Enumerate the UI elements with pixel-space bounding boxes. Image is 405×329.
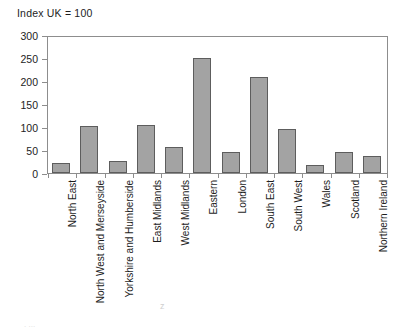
bar-chart-figure: Index UK = 100 050100150200250300 North … [0,0,405,329]
bars-layer [47,36,386,173]
bar [306,165,324,173]
y-axis-tick-label: 100 [20,122,38,134]
x-axis-tick-mark [105,174,106,178]
bar-slot [75,36,103,173]
x-axis-tick-mark [359,174,360,178]
x-axis-tick-mark [274,174,275,178]
chart-title: Index UK = 100 [17,7,92,19]
bar [52,163,70,173]
scan-artifact: z . ... [0,300,405,329]
bar [80,126,98,173]
x-axis-tick-mark [246,174,247,178]
y-axis-tick-label: 200 [20,76,38,88]
x-axis-label-slot: North East [48,180,76,298]
bar [278,129,296,173]
x-axis-tick-mark [189,174,190,178]
x-axis-labels: North EastNorth West and MerseysideYorks… [48,180,388,300]
x-axis-tick-mark [76,174,77,178]
y-axis-tick-label: 50 [26,145,38,157]
bar-slot [330,36,358,173]
bar-slot [104,36,132,173]
bar-slot [132,36,160,173]
bar-slot [188,36,216,173]
x-axis-label-slot: South East [246,180,274,298]
x-axis-label-slot: Eastern [189,180,217,298]
x-axis-tick-mark [161,174,162,178]
x-axis-label-slot: Yorkshire and Humberside [105,180,133,298]
y-axis: 050100150200250300 [0,30,47,180]
svg-text:z: z [160,301,165,311]
bar-slot [358,36,386,173]
plot-area [47,36,388,174]
bar-slot [47,36,75,173]
bar [250,77,268,173]
svg-text:. ...: . ... [24,320,35,329]
x-axis-label-slot: West Midlands [161,180,189,298]
x-axis-tick-mark [218,174,219,178]
x-axis-tick-mark [331,174,332,178]
bar-slot [160,36,188,173]
bar-slot [217,36,245,173]
x-axis-tick-label: Northern Ireland [379,180,389,252]
x-axis-label-slot: Wales [302,180,330,298]
y-axis-tick-label: 150 [20,99,38,111]
x-axis-label-slot: Scotland [331,180,359,298]
x-axis-label-slot: North West and Merseyside [76,180,104,298]
bar [193,58,211,173]
y-axis-tick-label: 250 [20,53,38,65]
y-axis-tick-label: 300 [20,30,38,42]
x-axis-ticks [48,174,388,179]
x-axis-tick-mark [302,174,303,178]
x-axis-tick-mark [387,174,388,178]
bar-slot [301,36,329,173]
bar-slot [273,36,301,173]
bar [363,156,381,173]
y-axis-tick-label: 0 [32,168,38,180]
x-axis-label-slot: London [218,180,246,298]
x-axis-label-slot: East Midlands [133,180,161,298]
x-axis-label-slot: Northern Ireland [359,180,387,298]
y-axis-tick-mark [42,174,47,175]
bar [165,147,183,173]
x-axis-tick-mark [48,174,49,178]
x-axis-tick-mark [133,174,134,178]
bar-slot [245,36,273,173]
bar [222,152,240,173]
bar [109,161,127,173]
x-axis-label-slot: South West [274,180,302,298]
bar [335,152,353,173]
bar [137,125,155,173]
